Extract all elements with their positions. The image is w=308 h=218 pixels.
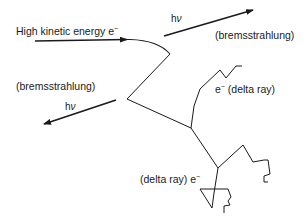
minus-superscript: − [114,25,118,32]
delta-ray-lower-label: (delta ray) e− [140,173,200,185]
frequency-nu: ν [177,13,182,24]
lower-delta-ray-track [200,168,231,213]
primary-electron-track [127,54,218,168]
photon-left-symbol: hν [65,101,76,113]
delta-ray-text: (delta ray) e [140,173,196,185]
photon-top-caption: (bremsstrahlung) [215,29,294,41]
photon-left-caption: (bremsstrahlung) [16,80,95,92]
minus-superscript: − [196,173,200,180]
delta-ray-text: (delta ray) [225,83,275,95]
delta-ray-upper-label: e− (delta ray) [215,83,275,95]
electron-track-diagram: High kinetic energy e− hν (bremsstrahlun… [0,0,308,218]
upper-delta-ray-track [191,66,242,128]
primary-electron-curve [125,40,170,55]
right-branch-track [218,145,270,182]
incident-electron-text: High kinetic energy e [16,25,114,37]
incident-electron-label: High kinetic energy e− [16,25,118,37]
photon-top-symbol: hν [171,13,182,25]
frequency-nu: ν [71,101,76,112]
incident-electron-arrow [35,40,127,42]
bremsstrahlung-photon-arrow-left [44,100,116,124]
